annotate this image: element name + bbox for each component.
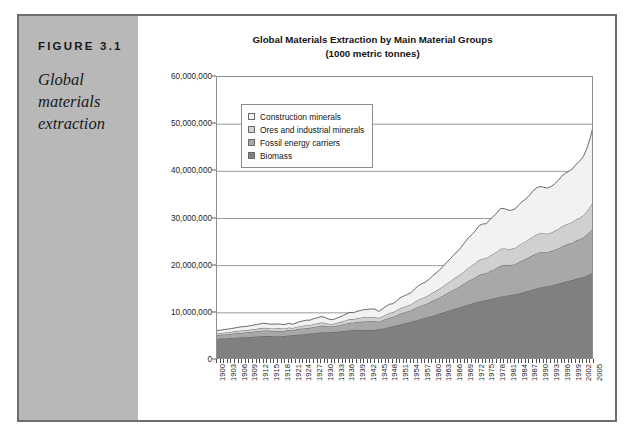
x-axis-tick-label: 1909	[251, 364, 259, 381]
x-axis-tick-mark	[363, 359, 364, 363]
x-axis-tick-mark	[521, 359, 522, 363]
x-axis-tick-mark	[220, 359, 221, 363]
legend-item: Construction minerals	[248, 110, 364, 123]
x-axis-tick-mark	[528, 359, 529, 363]
y-axis-tick-label: 30,000,000	[171, 213, 212, 222]
x-axis-tick-label: 2005	[596, 364, 604, 381]
x-axis-tick-label: 1963	[445, 364, 453, 381]
x-axis-tick-label: 1966	[456, 364, 464, 381]
x-axis-tick-mark	[284, 359, 285, 363]
x-axis-tick-label: 1954	[413, 364, 421, 381]
legend-swatch	[248, 152, 255, 159]
x-axis-tick-mark	[334, 359, 335, 363]
x-axis-tick-label: 1990	[542, 364, 550, 381]
x-axis-tick-label: 1903	[230, 364, 238, 381]
x-axis-tick-mark	[532, 359, 533, 363]
figure-number-label: FIGURE 3.1	[38, 40, 138, 52]
x-axis-tick-mark	[564, 359, 565, 363]
x-axis-tick-mark	[234, 359, 235, 363]
x-axis-tick-mark	[449, 359, 450, 363]
legend-label: Fossil energy carriers	[260, 138, 340, 148]
x-axis-tick-mark	[388, 359, 389, 363]
x-axis-tick-mark	[489, 359, 490, 363]
x-axis-tick-mark	[539, 359, 540, 363]
x-axis-tick-mark	[413, 359, 414, 363]
chart-title-line-2: (1000 metric tonnes)	[138, 47, 607, 61]
x-axis-tick-mark	[586, 359, 587, 363]
x-axis-tick-mark	[295, 359, 296, 363]
x-axis-tick-label: 1942	[370, 364, 378, 381]
x-axis-tick-mark	[589, 359, 590, 363]
x-axis-tick-mark	[561, 359, 562, 363]
x-axis-tick-mark	[367, 359, 368, 363]
x-axis-tick-label: 1924	[305, 364, 313, 381]
y-axis-tick-label: 40,000,000	[171, 166, 212, 175]
x-axis-tick-label: 1969	[467, 364, 475, 381]
x-axis-tick-mark	[475, 359, 476, 363]
x-axis-tick-mark	[546, 359, 547, 363]
x-axis-tick-mark	[410, 359, 411, 363]
x-axis-tick-mark	[309, 359, 310, 363]
x-axis-tick-label: 1972	[478, 364, 486, 381]
x-axis-tick-mark	[252, 359, 253, 363]
x-axis-tick-label: 1951	[402, 364, 410, 381]
x-axis-tick-mark	[579, 359, 580, 363]
x-axis-tick-mark	[503, 359, 504, 363]
x-axis-tick-label: 1987	[531, 364, 539, 381]
x-axis-tick-mark	[554, 359, 555, 363]
x-axis-tick-label: 1939	[359, 364, 367, 381]
x-axis-tick-label: 1906	[241, 364, 249, 381]
x-axis-tick-mark	[356, 359, 357, 363]
x-axis-tick-mark	[460, 359, 461, 363]
x-axis-tick-mark	[302, 359, 303, 363]
x-axis-tick-mark	[245, 359, 246, 363]
x-axis-tick-mark	[223, 359, 224, 363]
x-axis-tick-mark	[568, 359, 569, 363]
x-axis-tick-mark	[399, 359, 400, 363]
y-axis-tick-label: 60,000,000	[171, 72, 212, 81]
x-axis-tick-mark	[374, 359, 375, 363]
x-axis-tick-mark	[360, 359, 361, 363]
figure-inner: FIGURE 3.1 Global materials extraction G…	[19, 16, 615, 420]
x-axis-tick-mark	[270, 359, 271, 363]
x-axis-tick-mark	[281, 359, 282, 363]
x-axis-tick-mark	[557, 359, 558, 363]
x-axis-tick-mark	[385, 359, 386, 363]
x-axis-tick-mark	[299, 359, 300, 363]
legend-item: Ores and industrial minerals	[248, 123, 364, 136]
x-axis-tick-mark	[320, 359, 321, 363]
x-axis-tick-label: 1993	[553, 364, 561, 381]
x-axis-tick-mark	[248, 359, 249, 363]
x-axis-tick-mark	[428, 359, 429, 363]
x-axis-tick-label: 1912	[262, 364, 270, 381]
figure-caption-panel: FIGURE 3.1 Global materials extraction	[19, 16, 138, 420]
x-axis-tick-mark	[510, 359, 511, 363]
x-axis-tick-mark	[331, 359, 332, 363]
x-axis-tick-mark	[525, 359, 526, 363]
x-axis-tick-mark	[543, 359, 544, 363]
x-axis-tick-mark	[500, 359, 501, 363]
x-axis-tick-label: 1984	[521, 364, 529, 381]
x-axis-tick-mark	[345, 359, 346, 363]
chart-panel: Global Materials Extraction by Main Mate…	[138, 16, 615, 420]
x-axis-tick-mark	[227, 359, 228, 363]
x-axis-tick-label: 1936	[348, 364, 356, 381]
chart-title: Global Materials Extraction by Main Mate…	[138, 33, 607, 61]
chart-title-line-1: Global Materials Extraction by Main Mate…	[138, 33, 607, 47]
legend-swatch	[248, 139, 255, 146]
x-axis-tick-mark	[536, 359, 537, 363]
x-axis: 1900190319061909191219151918192119241927…	[216, 364, 593, 408]
x-axis-tick-mark	[492, 359, 493, 363]
x-axis-tick-mark	[453, 359, 454, 363]
figure-caption-text: Global materials extraction	[38, 69, 133, 134]
figure-container: FIGURE 3.1 Global materials extraction G…	[17, 14, 617, 422]
legend-label: Ores and industrial minerals	[260, 125, 364, 135]
y-axis: 010,000,00020,000,00030,000,00040,000,00…	[138, 76, 212, 359]
x-axis-tick-mark	[313, 359, 314, 363]
legend-item: Biomass	[248, 149, 364, 162]
x-axis-tick-label: 1945	[381, 364, 389, 381]
x-axis-tick-mark	[417, 359, 418, 363]
x-axis-tick-mark	[478, 359, 479, 363]
x-axis-tick-mark	[288, 359, 289, 363]
x-axis-tick-mark	[338, 359, 339, 363]
